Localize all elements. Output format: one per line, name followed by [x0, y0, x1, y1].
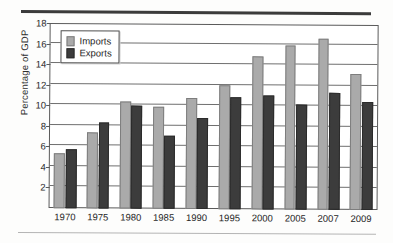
legend-label-imports: Imports — [80, 35, 112, 46]
x-axis-tick-label: 1980 — [120, 212, 141, 223]
gridline — [50, 186, 377, 189]
y-axis-tick-mark — [46, 126, 50, 127]
gridline — [50, 124, 377, 127]
x-axis-tick-label: 1995 — [219, 212, 240, 223]
legend-item-exports: Exports — [66, 47, 111, 58]
bar-chart-figure: Percentage of GDP 24681012141618 Imports… — [0, 0, 393, 243]
y-axis-tick-mark — [46, 167, 50, 168]
y-axis-tick-label: 2 — [26, 182, 46, 193]
x-axis-tick-labels: 1970197519801985199019952000200520072009 — [48, 211, 377, 229]
x-axis-tick-label: 2009 — [350, 213, 371, 224]
legend-label-exports: Exports — [79, 47, 111, 58]
y-axis-tick-label: 18 — [27, 17, 47, 28]
y-axis-tick-label: 16 — [27, 38, 47, 49]
y-axis-tick-label: 10 — [26, 100, 46, 111]
x-axis-tick-label: 1990 — [186, 212, 207, 223]
x-axis-tick-label: 2005 — [285, 213, 306, 224]
gridline — [50, 83, 377, 86]
gridline — [50, 103, 377, 106]
x-axis-tick-label: 1985 — [153, 212, 174, 223]
gridline — [50, 144, 377, 147]
x-axis-tick-label: 2007 — [318, 213, 339, 224]
y-axis-tick-label: 12 — [26, 79, 46, 90]
legend-item-imports: Imports — [67, 35, 112, 46]
y-axis-tick-mark — [47, 23, 51, 24]
y-axis-tick-label: 14 — [26, 59, 46, 70]
y-axis-tick-mark — [46, 188, 50, 189]
y-axis-tick-label: 4 — [26, 161, 46, 172]
x-axis-tick-label: 2000 — [252, 212, 273, 223]
legend-swatch-exports-icon — [66, 48, 74, 58]
chart-legend: Imports Exports — [60, 30, 119, 63]
y-axis-tick-mark — [46, 146, 50, 147]
y-axis-tick-label: 8 — [26, 120, 46, 131]
y-axis-tick-mark — [46, 85, 50, 86]
x-axis-tick-label: 1970 — [54, 211, 75, 222]
y-axis-tick-mark — [46, 64, 50, 65]
x-axis-tick-label: 1975 — [87, 211, 108, 222]
gridline — [50, 165, 377, 168]
y-axis-tick-mark — [46, 105, 50, 106]
y-axis-tick-label: 6 — [26, 141, 46, 152]
legend-swatch-imports-icon — [67, 36, 75, 46]
y-axis-tick-mark — [47, 44, 51, 45]
y-axis-tick-labels: 24681012141618 — [24, 23, 47, 208]
